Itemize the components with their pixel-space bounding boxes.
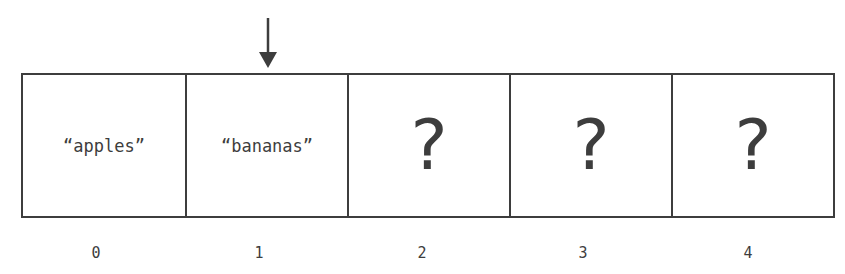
unknown-value: ? [410,110,447,180]
index-label-1: 1 [239,244,279,262]
cell-value: “apples” [63,136,145,156]
index-label-4: 4 [728,244,768,262]
array-cell-3: ? [511,75,673,216]
pointer-arrow-icon [256,16,280,70]
array-cell-0: “apples” [23,75,187,216]
array-box: “apples” “bananas” ? ? ? [21,73,835,218]
cell-value: “bananas” [221,136,313,156]
index-label-0: 0 [76,244,116,262]
unknown-value: ? [572,110,609,180]
index-label-2: 2 [402,244,442,262]
unknown-value: ? [734,110,771,180]
array-cell-2: ? [349,75,511,216]
array-cell-4: ? [673,75,833,216]
index-label-3: 3 [563,244,603,262]
array-cell-1: “bananas” [187,75,349,216]
